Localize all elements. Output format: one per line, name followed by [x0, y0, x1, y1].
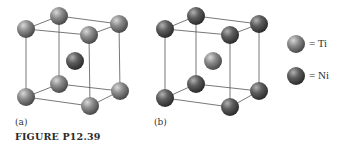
legend-ni-sphere: [287, 67, 305, 85]
atom-ti: [50, 75, 68, 93]
legend-ti-sphere: [287, 35, 305, 53]
legend-ni-label: = Ni: [309, 69, 329, 81]
atom-ti: [50, 7, 68, 25]
atom-ti: [17, 20, 35, 38]
atom-ni: [221, 98, 239, 116]
atom-ti: [17, 88, 35, 106]
panel-b-label: (b): [154, 117, 167, 127]
atom-ni: [250, 82, 268, 100]
atom-ni: [250, 15, 268, 33]
cube-a-atoms: [17, 7, 129, 115]
figure-caption: FIGURE P12.39: [15, 131, 101, 142]
atom-ni: [156, 20, 174, 38]
atom-ti: [111, 82, 129, 100]
atom-ni: [187, 7, 205, 25]
atom-ni: [221, 26, 239, 44]
crystal-structure-diagram: [0, 0, 346, 148]
atom-ti: [204, 52, 222, 70]
cube-b-atoms: [156, 7, 268, 116]
atom-ti: [80, 26, 98, 44]
atom-ni: [187, 75, 205, 93]
atom-ti: [81, 97, 99, 115]
legend-ti-label: = Ti: [309, 37, 327, 49]
atom-ni: [66, 52, 84, 70]
atom-ti: [110, 15, 128, 33]
panel-a-label: (a): [15, 117, 27, 127]
atom-ni: [156, 89, 174, 107]
